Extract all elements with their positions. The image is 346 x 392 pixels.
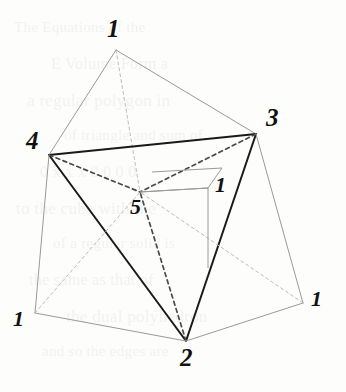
edge-bottom-right-to-center: [140, 192, 303, 303]
vertex-label-right: 3: [266, 105, 279, 130]
edge-right-to-bottom: [186, 134, 256, 341]
edge-bottom-left-to-bottom: [35, 313, 186, 341]
edge-layer: [35, 50, 303, 341]
edge-left-to-bottom-left: [35, 155, 49, 313]
vertex-label-center: 5: [130, 196, 141, 218]
polyhedron-drawing: [0, 0, 346, 392]
edge-bottom-to-bottom-right: [186, 303, 303, 341]
vertex-label-bottom: 2: [180, 345, 193, 370]
edge-bottom-to-center: [140, 192, 186, 341]
vertex-label-bottom-right: 1: [311, 288, 322, 310]
vertex-label-bottom-left: 1: [13, 308, 24, 330]
edge-bottom-left-to-center: [35, 192, 140, 313]
vertex-label-apex: 1: [107, 16, 120, 41]
polyhedron-figure: The Equations of theE Volume Form aa reg…: [0, 0, 346, 392]
edge-left-to-bottom: [49, 155, 186, 341]
inner-cube-layer: [140, 168, 222, 268]
vertex-label-inner-cube: 1: [215, 174, 226, 196]
edge-left-to-right: [49, 134, 256, 155]
vertex-label-left: 4: [26, 128, 39, 153]
edge-apex-to-right: [116, 50, 256, 134]
edge-apex-to-center: [116, 50, 140, 192]
edge-right-to-bottom-right: [256, 134, 303, 303]
edge-apex-to-left: [49, 50, 116, 155]
